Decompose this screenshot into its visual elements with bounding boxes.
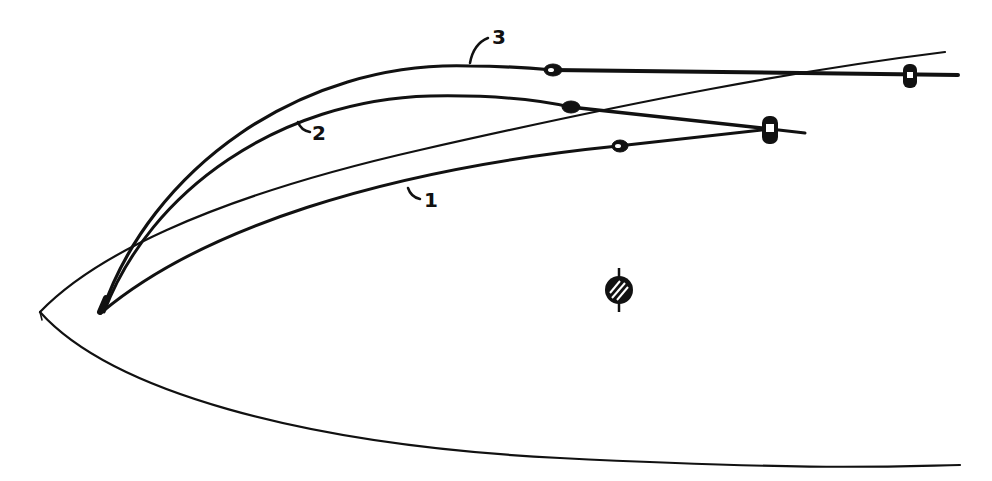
- block-mid: [762, 116, 778, 144]
- label-1: 1: [424, 188, 438, 212]
- sail-curve-3: [102, 66, 553, 312]
- clew-2: [562, 101, 580, 113]
- block-aft: [903, 64, 917, 88]
- label-3: 3: [492, 25, 506, 49]
- sail-diagram: 3 2 1: [0, 0, 992, 481]
- sheet-2: [570, 107, 770, 129]
- sail-curve-1: [102, 146, 618, 312]
- sheet-3: [553, 70, 958, 75]
- hull-outline-lower: [40, 312, 960, 467]
- label-2: 2: [312, 121, 326, 145]
- mast-icon: [605, 268, 633, 312]
- sail-curve-2: [104, 96, 570, 312]
- hull-outline: [40, 52, 945, 312]
